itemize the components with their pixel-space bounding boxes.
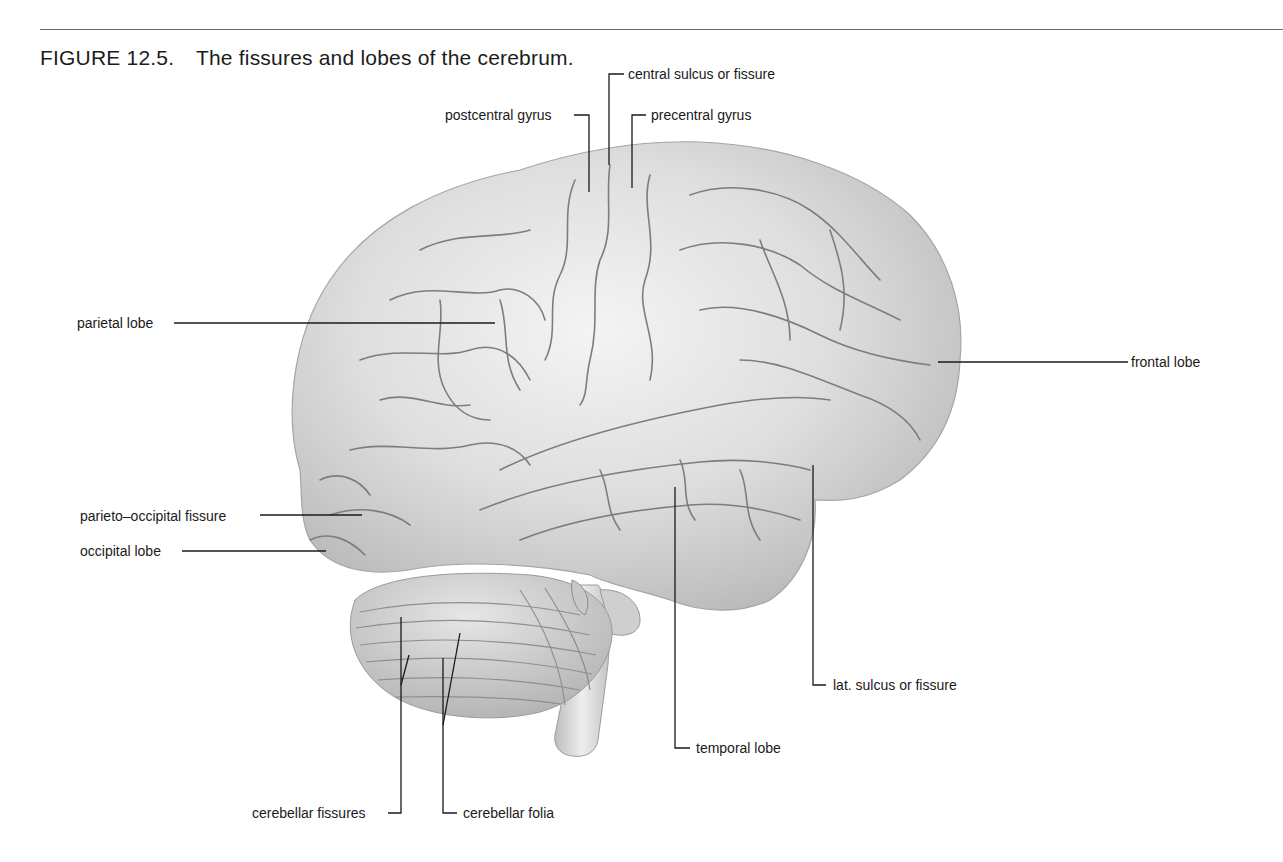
label-precentral-gyrus: precentral gyrus [651, 107, 751, 123]
label-frontal-lobe: frontal lobe [1131, 354, 1200, 370]
cerebellum [350, 573, 612, 718]
label-postcentral-gyrus: postcentral gyrus [445, 107, 552, 123]
label-central-sulcus: central sulcus or fissure [628, 66, 775, 82]
label-cerebellar-folia: cerebellar folia [463, 805, 554, 821]
label-lat-sulcus: lat. sulcus or fissure [833, 677, 957, 693]
label-temporal-lobe: temporal lobe [696, 740, 781, 756]
brain-illustration-icon [0, 0, 1283, 862]
cerebrum [292, 142, 961, 610]
label-cerebellar-fissures: cerebellar fissures [252, 805, 366, 821]
label-parietal-lobe: parietal lobe [77, 315, 153, 331]
label-parieto-occipital-fissure: parieto–occipital fissure [80, 508, 226, 524]
label-occipital-lobe: occipital lobe [80, 543, 161, 559]
